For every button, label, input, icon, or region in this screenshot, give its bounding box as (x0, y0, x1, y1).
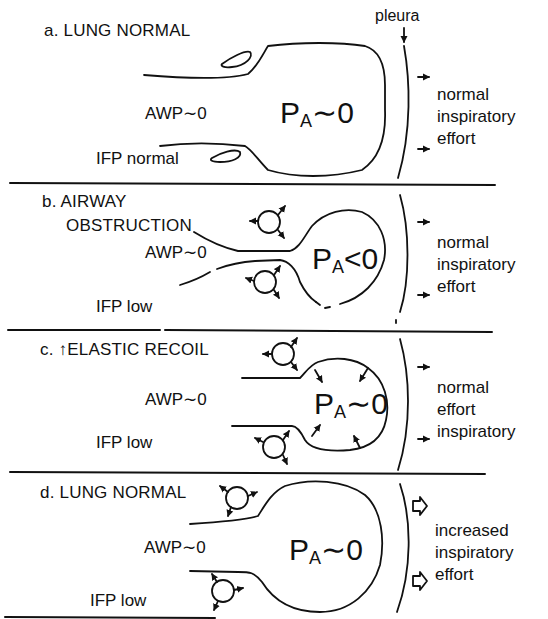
panel-b-airway-pressure: AWP∼0 (145, 244, 207, 261)
panel-d-ifp: IFP low (90, 592, 146, 609)
panel-a-ifp: IFP normal (96, 150, 179, 167)
effort-line: inspiratory (437, 421, 515, 443)
pleura-label: pleura (375, 8, 419, 24)
panel-a-title: a. LUNG NORMAL (44, 22, 190, 39)
pa-symbol: P (314, 387, 334, 420)
panel-d-title: d. LUNG NORMAL (40, 484, 186, 501)
panel-a-alveolar-pressure: PA∼0 (280, 98, 354, 130)
pa-subscript: A (309, 548, 321, 568)
panel-c-title: c. ↑ELASTIC RECOIL (40, 341, 209, 358)
panel-c-effort-label: normal effort inspiratory (437, 377, 515, 443)
effort-line: inspiratory (437, 254, 515, 276)
panel-c-airway-pressure: AWP∼0 (145, 391, 207, 408)
panel-c-ifp: IFP low (96, 434, 152, 451)
pa-symbol: P (289, 533, 309, 566)
effort-line: increased (435, 520, 513, 542)
pa-subscript: A (332, 257, 344, 277)
pa-relation: ∼0 (312, 96, 354, 129)
panel-b-effort-label: normal inspiratory effort (437, 232, 515, 298)
pa-relation: <0 (344, 242, 378, 275)
pa-subscript: A (334, 402, 346, 422)
pa-symbol: P (280, 96, 300, 129)
effort-line: inspiratory (435, 542, 513, 564)
panel-b-lung (180, 195, 429, 323)
effort-line: effort (437, 276, 515, 298)
panel-separators (5, 183, 495, 618)
pa-symbol: P (312, 242, 332, 275)
panel-b-title-line2: OBSTRUCTION (66, 217, 192, 234)
pa-relation: ∼0 (321, 533, 363, 566)
panel-a-effort-label: normal inspiratory effort (437, 84, 515, 150)
panel-c-alveolar-pressure: PA∼0 (314, 389, 388, 421)
pa-relation: ∼0 (346, 387, 388, 420)
effort-line: effort (435, 564, 513, 586)
pa-subscript: A (300, 111, 312, 131)
effort-line: effort (437, 128, 515, 150)
effort-line: normal (437, 84, 515, 106)
panel-b-alveolar-pressure: PA<0 (312, 244, 378, 276)
effort-line: inspiratory (437, 106, 515, 128)
panel-b-ifp: IFP low (96, 298, 152, 315)
panel-d-alveolar-pressure: PA∼0 (289, 535, 363, 567)
effort-line: effort (437, 399, 515, 421)
panel-b-title-line1: b. AIRWAY (42, 193, 127, 210)
panel-d-airway-pressure: AWP∼0 (144, 539, 206, 556)
effort-line: normal (437, 377, 515, 399)
panel-a-airway-pressure: AWP∼0 (145, 105, 207, 122)
effort-line: normal (437, 232, 515, 254)
panel-d-effort-label: increased inspiratory effort (435, 520, 513, 586)
